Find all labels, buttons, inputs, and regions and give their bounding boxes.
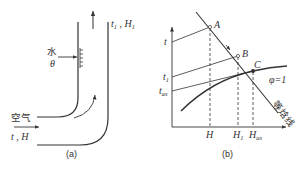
spray-nozzle-hatch <box>80 48 83 68</box>
y-label-t: t <box>164 36 167 47</box>
water-label: 水 <box>47 46 57 57</box>
caption-b: (b) <box>222 149 233 159</box>
y-label-t1: t1 <box>163 71 169 83</box>
point-A-marker <box>208 25 211 28</box>
isenthalpic-label: 等焓线 <box>270 98 297 128</box>
outlet-label: t1 , H1 <box>111 18 135 30</box>
duct-inner-wall <box>37 22 78 117</box>
x-label-Has: Has <box>248 129 262 141</box>
diagram-canvas: t1 , H1 水 θ 空气 t , H (a) <box>0 0 303 172</box>
x-label-H1: H1 <box>232 129 243 141</box>
inlet-label: t , H <box>11 131 29 142</box>
line-t-to-A <box>172 27 210 42</box>
air-label: 空气 <box>11 112 31 123</box>
point-B-marker <box>236 54 239 57</box>
point-C-label: C <box>254 59 261 70</box>
caption-a: (a) <box>66 149 77 159</box>
point-B-label: B <box>242 48 248 59</box>
panel-b: A B C t t1 tas H H1 Has φ=1 等焓线 (b) <box>159 12 298 159</box>
line-tas-to-C <box>172 71 253 91</box>
water-temp-label: θ <box>50 58 55 69</box>
line-t1-to-B <box>172 56 238 77</box>
point-A-label: A <box>213 19 221 30</box>
x-label-H: H <box>205 129 214 140</box>
duct-outer-wall <box>37 22 108 145</box>
y-label-tas: tas <box>159 85 168 97</box>
panel-a: t1 , H1 水 θ 空气 t , H (a) <box>11 11 135 159</box>
saturation-label: φ=1 <box>269 74 286 85</box>
